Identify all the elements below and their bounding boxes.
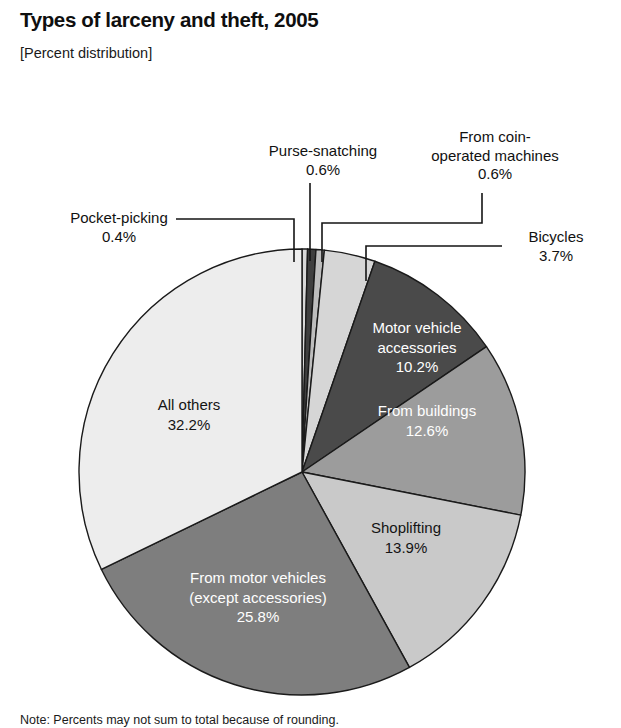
chart-note: Note: Percents may not sum to total beca…: [20, 713, 610, 728]
callout-coin-operated-machines: From coin- operated machines 0.6%: [400, 128, 590, 184]
callout-bicycles: Bicycles 3.7%: [506, 228, 606, 265]
callout-purse-snatching-label: Purse-snatching: [246, 142, 400, 161]
callout-pocket-picking-label: Pocket-picking: [36, 209, 202, 228]
leader-line-coin-operated: [322, 193, 482, 262]
callout-coin-operated-value: 0.6%: [400, 165, 590, 184]
callout-bicycles-label: Bicycles: [506, 228, 606, 247]
callout-coin-operated-label-line2: operated machines: [400, 147, 590, 166]
pie-slice-group: [79, 249, 525, 695]
callout-pocket-picking: Pocket-picking 0.4%: [36, 209, 202, 246]
callout-coin-operated-label-line1: From coin-: [400, 128, 590, 147]
callout-purse-snatching: Purse-snatching 0.6%: [246, 142, 400, 179]
callout-pocket-picking-value: 0.4%: [36, 228, 202, 247]
callout-purse-snatching-value: 0.6%: [246, 161, 400, 180]
callout-bicycles-value: 3.7%: [506, 247, 606, 266]
